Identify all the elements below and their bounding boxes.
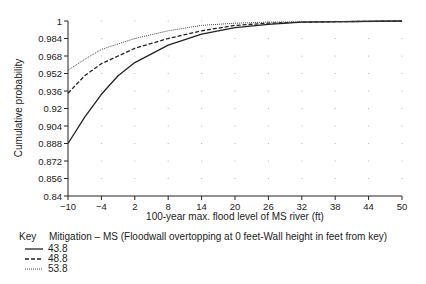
y-tick-label: 0.936 bbox=[38, 86, 62, 97]
y-tick-label: 0.888 bbox=[38, 138, 62, 149]
y-tick-label: 0.92 bbox=[44, 103, 63, 114]
legend-entry-label: 53.8 bbox=[48, 263, 68, 274]
series-lines bbox=[68, 21, 402, 144]
series-line-dotted bbox=[68, 21, 402, 70]
y-tick-label: 0.856 bbox=[38, 173, 62, 184]
x-axis-ticks: −10−42814202632384450 bbox=[60, 196, 407, 212]
legend-key-label: Key bbox=[19, 231, 36, 242]
x-tick-label: 44 bbox=[363, 201, 374, 212]
legend-title: Mitigation – MS (Floodwall overtopping a… bbox=[49, 231, 387, 242]
y-tick-label: 1 bbox=[57, 16, 62, 27]
x-axis-title: 100-year max. flood level of MS river (f… bbox=[146, 211, 324, 222]
y-tick-label: 0.968 bbox=[38, 51, 62, 62]
y-tick-label: 0.984 bbox=[38, 33, 62, 44]
series-line-dashed bbox=[68, 21, 402, 93]
y-axis-title: Cumulative probability bbox=[13, 59, 24, 157]
series-line-solid bbox=[68, 21, 402, 144]
x-tick-label: 2 bbox=[132, 201, 137, 212]
x-tick-label: −10 bbox=[60, 201, 76, 212]
y-tick-label: 0.952 bbox=[38, 68, 62, 79]
x-tick-label: −4 bbox=[96, 201, 107, 212]
y-tick-label: 0.904 bbox=[38, 121, 62, 132]
legend: Key Mitigation – MS (Floodwall overtoppi… bbox=[19, 231, 387, 274]
grid-points bbox=[101, 20, 403, 179]
y-axis-ticks: 10.9840.9680.9520.9360.920.9040.8880.872… bbox=[38, 16, 68, 202]
y-tick-label: 0.84 bbox=[44, 191, 63, 202]
x-tick-label: 50 bbox=[397, 201, 408, 212]
x-tick-label: 38 bbox=[330, 201, 341, 212]
cumulative-probability-chart: 10.9840.9680.9520.9360.920.9040.8880.872… bbox=[0, 0, 426, 284]
y-tick-label: 0.872 bbox=[38, 156, 62, 167]
